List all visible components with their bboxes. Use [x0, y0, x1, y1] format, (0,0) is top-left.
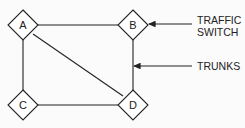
- node-b: B: [118, 10, 148, 40]
- node-a: A: [8, 10, 38, 40]
- traffic-switch-label-line1: TRAFFIC: [197, 14, 242, 26]
- traffic-switch-label-line2: SWITCH: [197, 26, 238, 38]
- node-a-label: A: [19, 19, 27, 31]
- node-c-label: C: [19, 99, 27, 111]
- trunks-label: TRUNKS: [197, 60, 240, 72]
- node-b-label: B: [129, 19, 136, 31]
- node-c: C: [8, 90, 38, 120]
- node-d: D: [118, 90, 148, 120]
- network-diagram: A B C D TRAFFIC SWITCH TRUNKS: [0, 0, 245, 128]
- node-d-label: D: [129, 99, 137, 111]
- edge-a-d: [33, 34, 123, 96]
